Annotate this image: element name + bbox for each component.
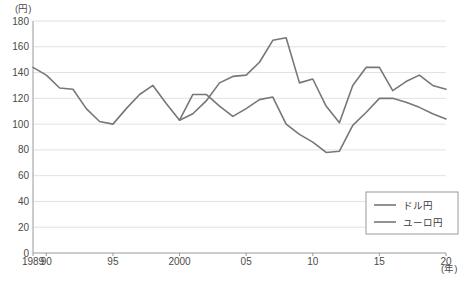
x-tick-label-2000: 2000 xyxy=(168,256,191,267)
y-tick-label-60: 60 xyxy=(18,170,30,181)
y-axis-tick-labels: 020406080100120140160180 xyxy=(12,16,29,259)
series-line-euro-yen xyxy=(180,38,446,123)
y-tick-label-180: 180 xyxy=(12,16,29,27)
x-axis-unit-label: (年) xyxy=(441,263,457,274)
y-tick-label-40: 40 xyxy=(18,196,30,207)
x-axis-tick-labels: 19899095200005101520 xyxy=(22,256,452,267)
y-tick-label-160: 160 xyxy=(12,41,29,52)
x-tick-label-15: 15 xyxy=(374,256,386,267)
x-tick-label-90: 90 xyxy=(41,256,53,267)
legend-label-euro-yen: ユーロ円 xyxy=(403,217,443,228)
y-axis-unit-label: (円) xyxy=(15,3,31,14)
y-tick-label-140: 140 xyxy=(12,67,29,78)
currency-exchange-rate-chart: 020406080100120140160180 198990952000051… xyxy=(0,0,463,288)
y-tick-label-20: 20 xyxy=(18,222,30,233)
x-tick-label-95: 95 xyxy=(107,256,119,267)
chart-legend[interactable]: ドル円 ユーロ円 xyxy=(366,192,458,234)
y-tick-label-100: 100 xyxy=(12,119,29,130)
series-lines-group xyxy=(33,38,446,153)
x-tick-label-05: 05 xyxy=(241,256,253,267)
legend-label-dollar-yen: ドル円 xyxy=(403,200,433,211)
series-line-dollar-yen xyxy=(33,67,446,152)
y-tick-label-120: 120 xyxy=(12,93,29,104)
y-tick-label-80: 80 xyxy=(18,144,30,155)
chart-canvas: 020406080100120140160180 198990952000051… xyxy=(0,0,463,288)
x-tick-label-10: 10 xyxy=(307,256,319,267)
